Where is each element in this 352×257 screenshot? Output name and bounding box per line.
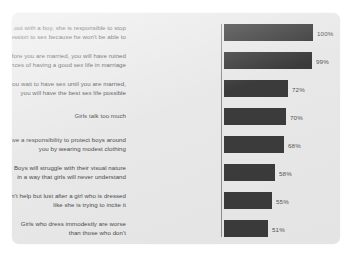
chart-row: You have a responsibility to protect boy…: [12, 136, 340, 153]
bar[interactable]: [224, 164, 275, 181]
bar[interactable]: [224, 24, 313, 41]
bar[interactable]: [224, 192, 272, 209]
bar-value-label: 99%: [316, 57, 329, 64]
bar[interactable]: [224, 136, 284, 153]
bar[interactable]: [224, 220, 268, 237]
category-label: Girls talk too much: [12, 112, 126, 120]
chart-card: If a girl makes out with a boy, she is r…: [12, 13, 340, 244]
bar[interactable]: [224, 80, 288, 97]
category-label: If you wait to have sex until you are ma…: [12, 80, 126, 97]
screenshot-root: If a girl makes out with a boy, she is r…: [0, 0, 352, 257]
category-label: Girls who dress immodestly are worse tha…: [12, 220, 126, 237]
bar-value-label: 55%: [276, 197, 289, 204]
category-label: You have a responsibility to protect boy…: [12, 136, 126, 153]
horizontal-bar-chart: If a girl makes out with a boy, she is r…: [12, 13, 340, 244]
category-label: Boys will struggle with their visual nat…: [12, 164, 126, 181]
chart-row: Boys will struggle with their visual nat…: [12, 164, 340, 181]
chart-row: If you have sex before you are married, …: [12, 52, 340, 69]
category-label: Boys can't help but lust after a girl wh…: [12, 192, 126, 209]
bar-value-label: 58%: [279, 169, 292, 176]
bar[interactable]: [224, 108, 286, 125]
category-label: If a girl makes out with a boy, she is r…: [12, 24, 126, 41]
bar-value-label: 72%: [292, 85, 305, 92]
chart-row: If you wait to have sex until you are ma…: [12, 80, 340, 97]
bar-value-label: 68%: [288, 141, 301, 148]
chart-row: If a girl makes out with a boy, she is r…: [12, 24, 340, 41]
chart-row: Girls who dress immodestly are worse tha…: [12, 220, 340, 237]
bar-value-label: 70%: [290, 113, 303, 120]
bar[interactable]: [224, 52, 312, 69]
chart-row: Girls talk too much 70%: [12, 108, 340, 125]
bar-value-label: 51%: [272, 225, 285, 232]
bar-value-label: 100%: [317, 29, 333, 36]
category-label: If you have sex before you are married, …: [12, 52, 126, 69]
chart-row: Boys can't help but lust after a girl wh…: [12, 192, 340, 209]
